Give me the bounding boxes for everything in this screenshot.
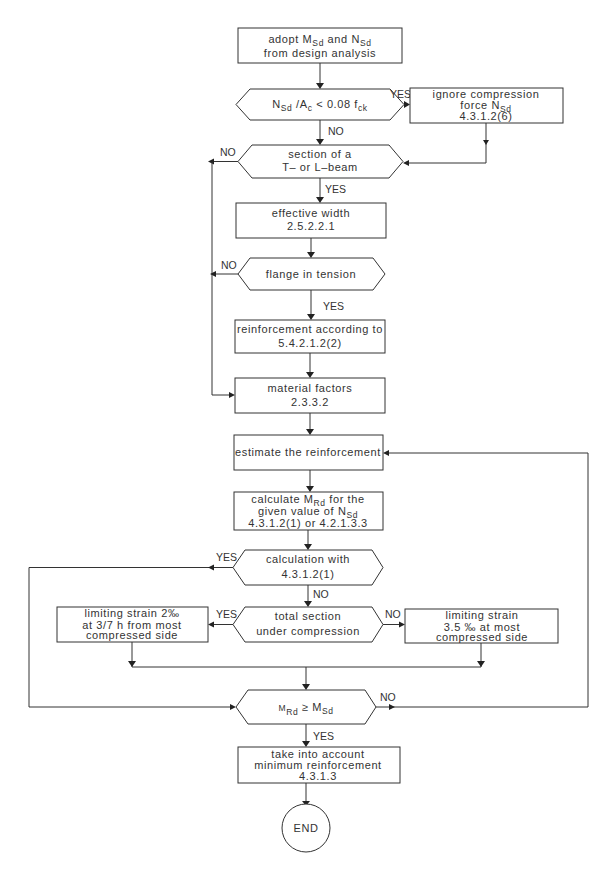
svg-text:compressed side: compressed side — [86, 629, 178, 641]
svg-text:2.3.3.2: 2.3.3.2 — [291, 396, 329, 408]
edge-label-yes: YES — [323, 300, 344, 312]
svg-text:under compression: under compression — [256, 625, 360, 637]
svg-text:estimate the reinforcement: estimate the reinforcement — [235, 446, 381, 458]
svg-text:4.3.1.2(6): 4.3.1.2(6) — [459, 110, 512, 122]
svg-text:material factors: material factors — [268, 382, 353, 394]
decision-total-section-compression: total section under compression — [233, 607, 383, 642]
node-calculate-mrd: calculate MRd for the given value of NSd… — [234, 492, 383, 530]
svg-text:4.3.1.2(1): 4.3.1.2(1) — [281, 568, 334, 580]
svg-text:effective width: effective width — [272, 207, 351, 219]
svg-text:reinforcement according to: reinforcement according to — [237, 323, 383, 335]
svg-text:limiting strain 2‰: limiting strain 2‰ — [84, 607, 179, 619]
svg-text:5.4.2.1.2(2): 5.4.2.1.2(2) — [278, 337, 341, 349]
node-end: END — [282, 804, 330, 852]
edge-label-no: NO — [380, 691, 396, 703]
node-effective-width: effective width 2.5.2.2.1 — [236, 203, 386, 238]
decision-mrd-ge-msd: MRd ≥ MSd — [236, 690, 376, 724]
edge-label-yes: YES — [313, 730, 334, 742]
node-minimum-reinforcement: take into account minimum reinforcement … — [238, 747, 400, 783]
edge-label-no: NO — [385, 608, 401, 620]
svg-text:4.3.1.2(1) or 4.2.1.3.3: 4.3.1.2(1) or 4.2.1.3.3 — [248, 517, 368, 529]
svg-text:END: END — [293, 822, 318, 834]
svg-text:4.3.1.3: 4.3.1.3 — [299, 770, 337, 782]
node-reinforcement-according: reinforcement according to 5.4.2.1.2(2) — [235, 320, 385, 353]
flowchart: adopt MSd and NSd from design analysis N… — [0, 0, 610, 882]
svg-text:flange in tension: flange in tension — [266, 268, 356, 280]
node-limiting-strain-2: limiting strain 2‰ at 3/7 h from most co… — [57, 607, 208, 642]
decision-compression-ratio: NSd /Ac < 0.08 fck — [236, 89, 404, 120]
svg-text:calculation with: calculation with — [266, 553, 350, 565]
edge-label-no: NO — [313, 588, 329, 600]
node-adopt: adopt MSd and NSd from design analysis — [238, 28, 402, 63]
edge-label-yes: YES — [325, 183, 346, 195]
node-ignore-compression: ignore compression force NSd 4.3.1.2(6) — [410, 88, 563, 123]
node-estimate-reinforcement: estimate the reinforcement — [234, 435, 383, 470]
svg-text:T– or L–beam: T– or L–beam — [282, 161, 358, 173]
node-material-factors: material factors 2.3.3.2 — [235, 378, 385, 413]
svg-text:limiting strain: limiting strain — [445, 609, 518, 621]
svg-text:2.5.2.2.1: 2.5.2.2.1 — [287, 220, 335, 232]
edge-label-yes: YES — [216, 608, 237, 620]
svg-text:from design analysis: from design analysis — [264, 47, 376, 59]
edge-label-yes: YES — [216, 551, 237, 563]
decision-calculation-with: calculation with 4.3.1.2(1) — [233, 550, 383, 585]
node-limiting-strain-35: limiting strain 3.5 ‰ at most compressed… — [405, 609, 558, 643]
svg-text:section of a: section of a — [288, 148, 352, 160]
edge-label-no: NO — [221, 259, 237, 271]
edge-label-no: NO — [328, 125, 344, 137]
edge-label-no: NO — [220, 146, 236, 158]
decision-flange-in-tension: flange in tension — [238, 258, 385, 290]
svg-text:total section: total section — [275, 610, 342, 622]
decision-t-or-l-beam: section of a T– or L–beam — [238, 145, 403, 178]
edge-label-yes: YES — [390, 88, 411, 100]
svg-text:compressed side: compressed side — [436, 631, 528, 643]
